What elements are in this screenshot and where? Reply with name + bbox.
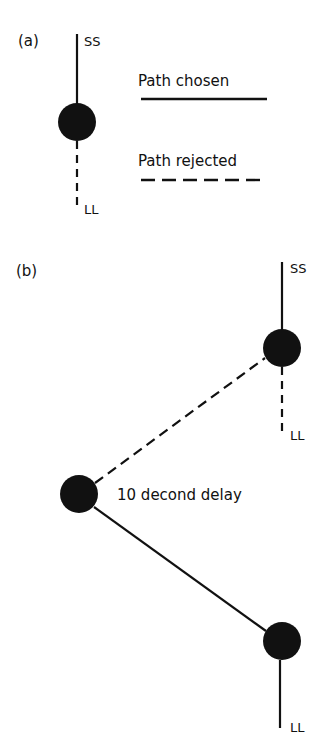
panel-b-lower-ll-label: LL xyxy=(290,720,305,735)
legend-rejected-label: Path rejected xyxy=(138,152,237,170)
panel-b-chosen-diagonal xyxy=(94,507,266,631)
panel-b-lower-node xyxy=(263,622,301,660)
panel-b-upper-ll-label: LL xyxy=(290,428,305,443)
panel-b-delay-label: 10 decond delay xyxy=(117,486,242,504)
legend-chosen-label: Path chosen xyxy=(138,72,229,90)
panel-a: (a) SS LL Path chosen Path rejected xyxy=(18,32,267,217)
panel-a-ss-label: SS xyxy=(84,34,101,49)
panel-b-upper-node xyxy=(263,329,301,367)
panel-a-label: (a) xyxy=(18,32,39,50)
panel-b-label: (b) xyxy=(16,262,37,280)
legend: Path chosen Path rejected xyxy=(138,72,267,180)
panel-b-left-node xyxy=(60,475,98,513)
panel-a-ll-label: LL xyxy=(84,202,99,217)
panel-b: (b) SS LL 10 decond delay LL xyxy=(16,261,307,735)
panel-b-rejected-diagonal xyxy=(95,358,265,483)
choice-diagram: (a) SS LL Path chosen Path rejected (b) … xyxy=(0,0,332,748)
panel-a-choice-node xyxy=(58,103,96,141)
panel-b-upper-ss-label: SS xyxy=(290,261,307,276)
